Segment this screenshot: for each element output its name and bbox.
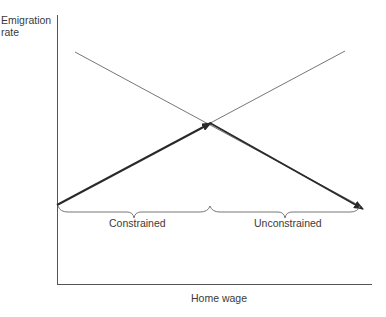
y-axis-label-line2: rate — [1, 26, 51, 38]
constrained-arrow — [57, 123, 211, 205]
unconstrained-arrow — [210, 123, 363, 209]
x-axis-label: Home wage — [191, 292, 247, 304]
region-label-unconstrained: Unconstrained — [254, 217, 322, 229]
y-axis-label: Emigration rate — [1, 14, 51, 38]
emigration-diagram — [0, 0, 386, 317]
region-label-constrained: Constrained — [109, 217, 166, 229]
y-axis-label-line1: Emigration — [1, 14, 51, 26]
